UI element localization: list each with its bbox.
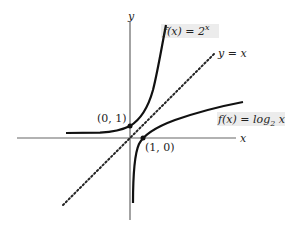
exp-label: f(x) = 2x: [162, 23, 210, 38]
point-1-0: [141, 136, 146, 141]
graph-canvas: y x (0, 1) (1, 0) f(x) = 2x f(x) = log2 …: [0, 0, 294, 231]
point-label-0-1: (0, 1): [97, 112, 127, 125]
point-label-1-0: (1, 0): [145, 141, 175, 154]
identity-label: y = x: [217, 47, 247, 60]
identity-line: [63, 53, 215, 205]
log-label: f(x) = log2 x: [217, 113, 286, 128]
x-axis-label: x: [240, 132, 247, 145]
point-0-1: [128, 124, 133, 129]
y-axis-label: y: [127, 10, 135, 23]
